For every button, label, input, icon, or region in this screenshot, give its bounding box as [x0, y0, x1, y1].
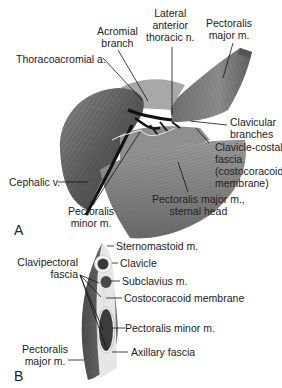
label-thoracoacromial-a: Thoracoacromial a. [16, 53, 106, 65]
label-costocoracoid-membrane: Costocoracoid membrane [124, 292, 244, 304]
label-clavipectoral-fascia: Clavipectoral fascia [14, 256, 78, 280]
label-subclavius: Subclavius m. [122, 275, 187, 287]
label-clavicular-branches: Clavicular branches [230, 116, 276, 140]
label-clavicle-costal-fascia: Clavicle-costal fascia (costocoracoid me… [215, 141, 282, 189]
label-sternomastoid: Sternomastoid m. [116, 240, 198, 252]
label-clavicle: Clavicle [120, 257, 157, 269]
label-pectoralis-major-b: Pectoralis major m. [22, 343, 68, 367]
label-cephalic-v: Cephalic v. [9, 176, 60, 188]
label-pectoralis-major: Pectoralis major m. [206, 17, 252, 41]
label-axillary-fascia: Axillary fascia [131, 346, 195, 358]
label-pectoralis-major-sternal-head: Pectoralis major m., sternal head [152, 193, 245, 217]
panel-label-b: B [14, 368, 23, 384]
label-lateral-anterior-thoracic-n: Lateral anterior thoracic n. [146, 7, 194, 43]
label-acromial-branch: Acromial branch [97, 25, 138, 49]
panel-label-a: A [14, 222, 23, 238]
label-pectoralis-minor: Pectoralis minor m. [68, 205, 114, 229]
label-pectoralis-minor-b: Pectoralis minor m. [125, 322, 215, 334]
